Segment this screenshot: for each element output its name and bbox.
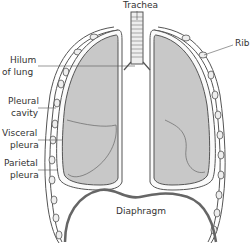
- label-trachea: Trachea: [123, 0, 158, 11]
- label-parietal-line1: Parietal: [4, 158, 38, 169]
- label-parietal-line2: pleura: [10, 170, 39, 181]
- label-visceral-line1: Visceral: [2, 128, 37, 139]
- label-pleural-cavity-line1: Pleural: [8, 96, 39, 107]
- left-lung: [62, 35, 118, 185]
- label-rib: Rib: [235, 38, 249, 49]
- label-visceral-line2: pleura: [10, 140, 39, 151]
- trachea: [124, 12, 150, 70]
- label-pleural-cavity-line2: cavity: [11, 108, 38, 119]
- label-diaphragm: Diaphragm: [116, 206, 166, 217]
- label-hilum-line2: of lung: [2, 67, 33, 78]
- label-hilum-line1: Hilum: [10, 55, 36, 66]
